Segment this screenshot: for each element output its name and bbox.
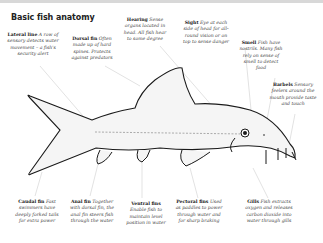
label-pectoral-fins: Pectoral fins Used as paddles to power t… [174,199,224,224]
fish-body [28,68,295,175]
label-smell: Smell Fish have nostrils. Many fish rely… [238,40,284,71]
label-sight: Sight Eye at each side of head for all-r… [182,20,230,45]
label-hearing: Hearing Sense organs located in head. Al… [122,17,168,42]
label-ventral-fins: Ventral fins Enable fish to maintain lev… [124,201,168,226]
label-lateral-line: Lateral line A row of sensory detects wa… [6,32,60,57]
label-barbels: Barbels Sensory feelers around the mouth… [268,82,318,107]
label-gills: Gills Fish extracts oxygen and releases … [242,199,296,224]
label-caudal-fin: Caudal fin Fast swimmers have deeply for… [14,199,60,224]
anal-fin [97,150,112,164]
ventral-fin [137,150,150,162]
label-anal-fin: Anal fin Together with dorsal fin, the a… [68,199,116,224]
pectoral-fin [181,150,210,166]
nostril [263,134,265,136]
label-dorsal-fin: Dorsal fin Often made up of hard spines.… [69,36,115,61]
